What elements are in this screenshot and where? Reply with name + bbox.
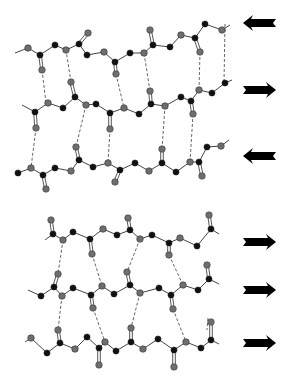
carbon-atom <box>208 226 214 232</box>
hydrogen-bond <box>58 296 62 330</box>
carbon-atom <box>114 232 120 238</box>
nitrogen-atom <box>162 103 169 110</box>
carbon-atom <box>206 276 212 282</box>
carbon-atom <box>52 165 58 171</box>
oxygen-atom <box>147 27 154 34</box>
carbon-atom <box>202 21 208 27</box>
carbon-atom <box>155 336 161 342</box>
nitrogen-atom <box>45 100 52 107</box>
carbon-atom <box>96 345 102 351</box>
nitrogen-atom <box>99 283 106 290</box>
backbone-chain <box>25 337 219 353</box>
carbon-atom <box>171 347 177 353</box>
hydrogen-bond <box>224 24 225 84</box>
arrow-right-icon <box>243 335 276 351</box>
nitrogen-atom <box>178 32 185 39</box>
carbon-atom <box>195 287 201 293</box>
carbon-atom <box>159 160 165 166</box>
oxygen-atom <box>55 327 62 334</box>
carbon-atom <box>166 240 172 246</box>
carbon-atom <box>15 170 21 176</box>
carbon-atom <box>52 42 58 48</box>
nitrogen-atom <box>59 293 66 300</box>
nitrogen-atom <box>141 50 148 57</box>
hydrogen-bond <box>58 240 63 274</box>
nitrogen-atom <box>187 159 194 166</box>
oxygen-atom <box>204 262 211 269</box>
hydrogen-bond <box>108 129 110 163</box>
carbon-atom <box>40 172 46 178</box>
carbon-atom <box>50 231 56 237</box>
arrow-right-icon <box>243 282 276 298</box>
oxygen-atom <box>89 251 96 258</box>
carbon-atom <box>196 159 202 165</box>
hydrogen-bond <box>207 318 208 330</box>
nitrogen-atom <box>196 87 203 94</box>
atoms <box>15 21 228 370</box>
nitrogen-atom <box>180 282 187 289</box>
nitrogen-atom <box>102 339 109 346</box>
nitrogen-atom <box>25 45 32 52</box>
nitrogen-atom <box>137 290 144 297</box>
oxygen-atom <box>208 319 215 326</box>
hydrogen-bond <box>93 308 105 342</box>
carbon-atom <box>112 59 118 65</box>
carbon-atom <box>51 284 57 290</box>
carbon-atom <box>111 291 117 297</box>
carbon-atom <box>178 94 184 100</box>
carbon-atom <box>37 52 43 58</box>
oxygen-atom <box>39 67 46 74</box>
nitrogen-atom <box>177 235 184 242</box>
hydrogen-bond <box>169 255 183 285</box>
oxygen-atom <box>190 111 197 118</box>
hydrogen-bond <box>162 106 165 149</box>
nitrogen-atom <box>68 168 75 175</box>
carbon-atom <box>72 94 78 100</box>
nitrogen-atom <box>183 339 190 346</box>
oxygen-atom <box>128 325 135 332</box>
carbon-atom <box>76 157 82 163</box>
nitrogen-atom <box>72 346 79 353</box>
carbon-atom <box>127 282 133 288</box>
carbon-atom <box>148 101 154 107</box>
beta-sheet-diagram <box>0 0 300 381</box>
carbon-atom <box>150 42 156 48</box>
backbone-chain <box>18 140 229 175</box>
carbon-atom <box>136 111 142 117</box>
carbon-atom <box>93 101 99 107</box>
oxygen-atom <box>125 215 132 222</box>
carbon-atom <box>76 41 82 47</box>
hydrogen-bond <box>173 309 186 342</box>
carbon-atom <box>70 285 76 291</box>
arrow-right-icon <box>243 234 276 250</box>
nitrogen-atom <box>83 102 90 109</box>
carbon-atom <box>209 90 215 96</box>
hydrogen-bond <box>42 70 46 103</box>
backbone-bonds <box>15 24 232 367</box>
carbon-atom <box>44 350 50 356</box>
carbon-atom <box>132 160 138 166</box>
oxygen-atom <box>73 144 80 151</box>
carbon-atom <box>84 52 90 58</box>
oxygen-atom <box>112 179 119 186</box>
hydrogen-bond <box>66 50 71 82</box>
nitrogen-atom <box>105 160 112 167</box>
carbon-atom <box>84 334 90 340</box>
carbon-atom <box>113 348 119 354</box>
nitrogen-atom <box>100 226 107 233</box>
nitrogen-atom <box>28 165 35 172</box>
carbon-atom <box>222 80 228 86</box>
hydrogen-bond <box>144 53 150 91</box>
carbon-atom <box>149 232 155 238</box>
carbon-atom <box>173 169 179 175</box>
oxygen-atom <box>124 269 131 276</box>
oxygen-atom <box>197 49 204 56</box>
oxygen-atom <box>159 146 166 153</box>
hydrogen-bond <box>190 114 193 162</box>
carbon-atom <box>208 337 214 343</box>
carbon-atom <box>90 164 96 170</box>
carbon-atom <box>57 340 63 346</box>
oxygen-atom <box>85 30 92 37</box>
oxygen-atom <box>166 252 173 259</box>
oxygen-atom <box>48 217 55 224</box>
